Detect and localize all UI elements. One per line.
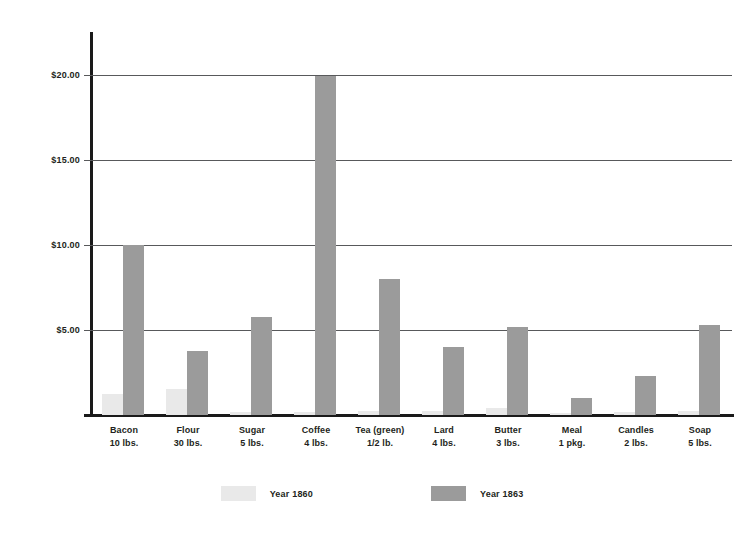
bar-1863 — [123, 245, 144, 415]
y-axis-tick-label: $15.00 — [51, 155, 80, 165]
legend-item: Year 1863 — [431, 486, 523, 501]
category-name: Lard — [434, 425, 454, 435]
bar-group — [604, 32, 668, 415]
bar-chart: $5.00$10.00$15.00$20.00 Bacon10 lbs.Flou… — [0, 0, 744, 535]
legend-label: Year 1860 — [270, 489, 313, 499]
legend-label: Year 1863 — [480, 489, 523, 499]
category-name: Sugar — [239, 425, 265, 435]
category-name: Coffee — [302, 425, 331, 435]
bar-1860 — [614, 412, 635, 415]
bar-group — [348, 32, 412, 415]
category-unit: 5 lbs. — [658, 437, 742, 450]
bar-1863 — [315, 76, 336, 415]
bar-1860 — [678, 411, 699, 415]
category-name: Flour — [177, 425, 200, 435]
legend-swatch — [431, 486, 466, 501]
category-name: Candles — [618, 425, 654, 435]
category-name: Butter — [494, 425, 521, 435]
x-axis-category-labels: Bacon10 lbs.Flour30 lbs.Sugar5 lbs.Coffe… — [92, 424, 732, 464]
chart-legend: Year 1860Year 1863 — [0, 486, 744, 501]
bar-group — [476, 32, 540, 415]
bar-1863 — [507, 327, 528, 416]
y-axis-tick-label: $5.00 — [56, 325, 80, 335]
bar-1860 — [358, 411, 379, 415]
legend-swatch — [221, 486, 256, 501]
bar-group — [92, 32, 156, 415]
y-axis-tick-label: $10.00 — [51, 240, 80, 250]
y-axis-tick-label: $20.00 — [51, 70, 80, 80]
legend-item: Year 1860 — [221, 486, 313, 501]
bar-1863 — [699, 325, 720, 415]
bar-group — [284, 32, 348, 415]
bar-1863 — [443, 347, 464, 415]
bar-1863 — [571, 398, 592, 415]
bar-group — [668, 32, 732, 415]
category-name: Soap — [689, 425, 711, 435]
x-axis-category-label: Soap5 lbs. — [658, 424, 742, 450]
bar-group — [156, 32, 220, 415]
bar-1860 — [102, 394, 123, 415]
bar-group — [540, 32, 604, 415]
category-name: Meal — [562, 425, 582, 435]
bar-1863 — [251, 317, 272, 415]
bar-1860 — [230, 412, 251, 415]
plot-area — [92, 32, 732, 415]
bar-1860 — [486, 408, 507, 415]
bar-1860 — [166, 389, 187, 415]
bar-1860 — [550, 413, 571, 415]
bar-1863 — [187, 351, 208, 415]
bar-group — [412, 32, 476, 415]
y-axis-tick-labels: $5.00$10.00$15.00$20.00 — [0, 0, 80, 535]
bar-1863 — [379, 279, 400, 415]
bar-group — [220, 32, 284, 415]
category-name: Bacon — [110, 425, 138, 435]
bar-1860 — [294, 412, 315, 415]
bar-1863 — [635, 376, 656, 415]
category-name: Tea (green) — [356, 425, 405, 435]
bar-1860 — [422, 411, 443, 415]
